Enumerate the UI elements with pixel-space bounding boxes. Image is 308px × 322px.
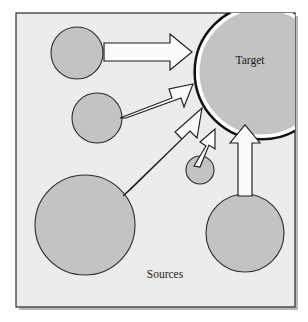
source-circle-top-left[interactable]	[51, 27, 103, 79]
source-circle-large-bottom-left[interactable]	[35, 175, 135, 275]
figure-root: Target Sources	[0, 0, 308, 322]
source-circle-bottom-right[interactable]	[206, 194, 284, 272]
target-label: Target	[236, 54, 266, 67]
sources-label: Sources	[147, 268, 184, 280]
sources-target-diagram: Target Sources	[0, 0, 308, 322]
source-circle-mid-left[interactable]	[72, 93, 122, 143]
